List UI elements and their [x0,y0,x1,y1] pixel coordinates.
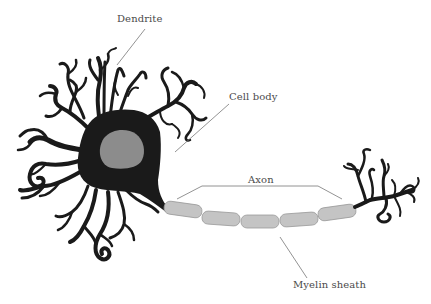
myelin-segment [317,203,356,221]
myelin-segment [202,211,241,227]
neuron-diagram: Dendrite Cell body Axon Myelin sheath [0,0,431,304]
myelin-leader [280,237,307,278]
myelin-sheath [163,200,356,228]
axon-bracket [177,186,342,199]
label-axon: Axon [248,174,274,185]
dendrite-leader [117,29,145,65]
cell-body-leader [175,104,229,152]
myelin-segment [280,212,319,228]
myelin-segment [241,215,279,228]
myelin-segment [163,200,202,218]
label-dendrite: Dendrite [117,13,163,24]
nucleus [100,130,144,169]
label-myelin-sheath: Myelin sheath [293,279,366,290]
neuron-illustration [0,0,431,304]
label-cell-body: Cell body [229,91,278,102]
